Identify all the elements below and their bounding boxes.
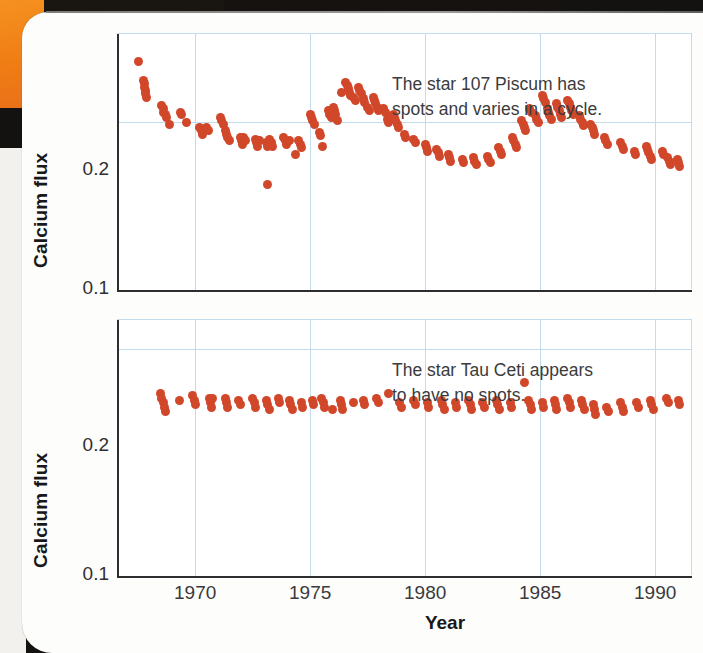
data-point <box>446 157 455 166</box>
y-tick-bottom-0.1: 0.1 <box>49 563 109 585</box>
panel-border-right <box>691 33 692 289</box>
gridline-vertical <box>195 320 196 576</box>
data-point <box>423 147 432 156</box>
data-point <box>223 403 232 412</box>
data-point <box>318 142 327 151</box>
x-axis-label: Year <box>345 612 545 634</box>
annotation-tau-ceti: The star Tau Ceti appears to have no spo… <box>392 358 672 408</box>
axis-spine-left <box>117 33 119 291</box>
axis-spine-bottom <box>117 576 692 578</box>
data-point <box>360 400 369 409</box>
panel-border-right <box>691 319 692 575</box>
data-point <box>225 136 234 145</box>
axis-spine-bottom <box>117 290 692 292</box>
data-point <box>603 140 612 149</box>
panel-border-top <box>117 33 692 34</box>
x-tick-1990: 1990 <box>610 582 700 604</box>
data-point <box>265 405 274 414</box>
data-point <box>275 398 284 407</box>
data-point <box>134 57 143 66</box>
data-point <box>285 136 294 145</box>
data-point <box>459 158 468 167</box>
data-point <box>590 130 599 139</box>
data-point <box>591 410 600 419</box>
data-point <box>316 131 325 140</box>
data-point <box>291 150 300 159</box>
data-point <box>512 143 521 152</box>
data-point <box>161 407 170 416</box>
data-point <box>675 162 684 171</box>
data-point <box>675 400 684 409</box>
gridline-vertical <box>195 34 196 290</box>
data-point <box>204 126 213 135</box>
data-point <box>268 142 277 151</box>
data-point <box>604 407 613 416</box>
axis-spine-left <box>117 319 119 577</box>
data-point <box>298 403 307 412</box>
data-point <box>435 152 444 161</box>
data-point <box>165 120 174 129</box>
data-point <box>309 400 318 409</box>
data-point <box>647 155 656 164</box>
data-point <box>497 150 506 159</box>
y-tick-top-0.2: 0.2 <box>49 158 109 180</box>
data-point <box>472 160 481 169</box>
x-tick-1970: 1970 <box>150 582 240 604</box>
x-tick-1980: 1980 <box>380 582 470 604</box>
data-point <box>191 400 200 409</box>
data-point <box>263 180 272 189</box>
y-tick-top-0.1: 0.1 <box>49 277 109 299</box>
data-point <box>333 116 342 125</box>
data-point <box>142 93 151 102</box>
data-point <box>236 400 245 409</box>
data-point <box>251 403 260 412</box>
data-point <box>631 150 640 159</box>
data-point <box>349 398 358 407</box>
figure: Calcium flux 0.2 0.1 The star 107 Piscum… <box>0 0 703 653</box>
data-point <box>338 405 347 414</box>
data-point <box>411 138 420 147</box>
gridline-horizontal <box>117 349 692 350</box>
y-tick-bottom-0.2: 0.2 <box>49 434 109 456</box>
data-point <box>208 394 217 403</box>
gridline-vertical <box>310 34 311 290</box>
data-point <box>207 403 216 412</box>
data-point <box>619 407 628 416</box>
data-point <box>619 145 628 154</box>
data-point <box>374 398 383 407</box>
panel-border-top <box>117 319 692 320</box>
data-point <box>521 126 530 135</box>
data-point <box>241 136 250 145</box>
x-tick-1975: 1975 <box>265 582 355 604</box>
data-point <box>486 158 495 167</box>
data-point <box>182 118 191 127</box>
data-point <box>288 405 297 414</box>
data-point <box>175 396 184 405</box>
y-axis-label-bottom: Calcium flux <box>30 378 52 568</box>
gridline-vertical <box>310 320 311 576</box>
data-point <box>328 405 337 414</box>
annotation-107-piscum: The star 107 Piscum has spots and varies… <box>392 72 672 122</box>
x-tick-1985: 1985 <box>495 582 585 604</box>
